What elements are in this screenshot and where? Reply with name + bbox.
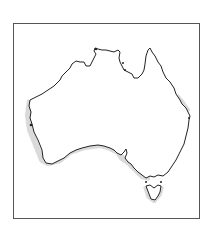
island-marker xyxy=(124,69,126,71)
island-marker xyxy=(95,48,97,50)
australia-map xyxy=(0,0,208,227)
island-marker xyxy=(160,181,162,183)
island-marker xyxy=(30,124,33,127)
island-marker xyxy=(122,62,124,64)
mainland-coastline xyxy=(29,48,190,178)
island-marker xyxy=(188,117,190,119)
island-marker xyxy=(145,181,147,183)
